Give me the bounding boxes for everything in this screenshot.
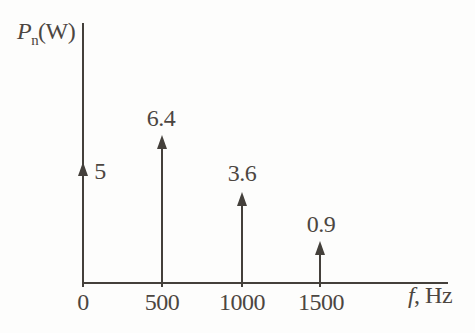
- x-tick-label-1000: 1000: [219, 290, 265, 314]
- x-axis-line: [82, 282, 448, 284]
- stem-1500hz: [314, 241, 326, 287]
- x-axis-label-unit: , Hz: [414, 282, 452, 308]
- value-label-500hz: 6.4: [147, 106, 176, 130]
- value-label-0hz: 5: [94, 159, 106, 183]
- value-label-1000hz: 3.6: [228, 161, 257, 185]
- stem-0hz: [77, 162, 89, 287]
- stem-line: [319, 248, 322, 287]
- x-tick-label-500: 500: [145, 290, 180, 314]
- stem-500hz: [156, 135, 168, 287]
- stem-line: [82, 169, 85, 287]
- x-tick-label-0: 0: [77, 290, 89, 314]
- x-tick-label-1500: 1500: [298, 290, 344, 314]
- stem-plot-figure: Pn(W) 5 6.4 3.6 0.9 0 500 1000 1500 f, H…: [0, 0, 475, 333]
- value-label-1500hz: 0.9: [307, 212, 336, 236]
- stem-line: [241, 199, 244, 287]
- y-axis-label-symbol: P: [17, 18, 31, 44]
- y-axis-label-unit: (W): [38, 18, 75, 44]
- x-axis-label: f, Hz: [408, 283, 452, 307]
- stem-1000hz: [236, 192, 248, 287]
- stem-line: [161, 142, 164, 287]
- y-axis-label: Pn(W): [17, 19, 75, 43]
